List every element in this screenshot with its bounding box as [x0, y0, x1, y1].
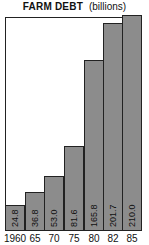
bar-65: 36.8 — [25, 192, 45, 231]
bar-value-label: 210.0 — [127, 204, 137, 227]
bar-value-label: 165.8 — [89, 204, 99, 227]
chart-title-text: FARM DEBT — [23, 1, 83, 12]
bar-value-label: 24.8 — [10, 209, 20, 227]
bar-80: 165.8 — [84, 60, 104, 231]
chart-unit-label: (billions) — [89, 1, 126, 12]
bar-70: 53.0 — [44, 176, 64, 231]
bar-value-label: 201.7 — [108, 204, 118, 227]
bar-value-label: 53.0 — [49, 209, 59, 227]
bar-value-label: 36.8 — [30, 209, 40, 227]
bar-85: 210.0 — [122, 15, 142, 231]
bar-1960: 24.8 — [5, 205, 25, 231]
bar-value-label: 81.6 — [69, 209, 79, 227]
x-tick-label: 85 — [120, 233, 144, 244]
bar-75: 81.6 — [64, 146, 84, 231]
chart-title: FARM DEBT(billions) — [0, 0, 149, 14]
bar-82: 201.7 — [103, 23, 123, 231]
